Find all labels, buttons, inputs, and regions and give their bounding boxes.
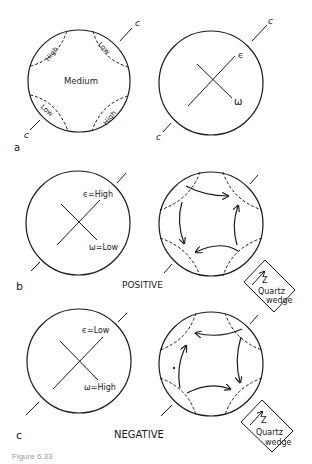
c-axis-label-top: c [135, 18, 140, 28]
region-top-left-label: High [44, 45, 60, 63]
c-axis-label-top-right: c [268, 16, 273, 26]
panel-b-left-circle [26, 171, 130, 275]
sign-negative-label: NEGATIVE [114, 429, 164, 440]
c-axis-label-bottom: c [24, 130, 29, 140]
panel-b-right-circle [159, 172, 263, 276]
omega-high-label: ω=High [84, 383, 116, 392]
quartz-wedge-b: Z Quartz wedge [244, 260, 295, 312]
epsilon-label: ϵ [238, 50, 244, 60]
wedge-label: wedge [266, 296, 293, 305]
z-axis-label-c: Z [261, 416, 267, 425]
omega-label: ω [234, 96, 242, 107]
sign-positive-label: POSITIVE [122, 280, 163, 290]
panel-c-left-circle [26, 309, 131, 415]
c-axis-label-bottom-right: c [156, 132, 161, 142]
epsilon-high-label: ϵ=High [83, 190, 113, 199]
wedge-label-c: wedge [265, 438, 292, 447]
panel-a-right-circle [159, 25, 267, 135]
panel-label-c: c [16, 429, 22, 442]
panel-c-right-circle [159, 312, 263, 416]
quartz-label-c: Quartz [256, 428, 283, 437]
panel-label-b: b [16, 280, 23, 293]
panel-label-a: a [14, 142, 20, 153]
figure-canvas: Medium High Low Low High c c a ϵ ω c c ϵ… [0, 0, 312, 464]
z-axis-label: Z [262, 276, 268, 285]
quartz-label: Quartz [258, 287, 285, 296]
region-center-label: Medium [64, 76, 98, 86]
omega-low-label: ω=Low [89, 243, 119, 252]
region-bottom-right-label: High [102, 109, 118, 127]
figure-caption: Figure 6.33 [12, 452, 52, 461]
quartz-wedge-c: Z Quartz wedge [241, 400, 293, 452]
epsilon-low-label: ϵ=Low [82, 326, 110, 335]
region-top-right-label: Low [96, 41, 111, 57]
